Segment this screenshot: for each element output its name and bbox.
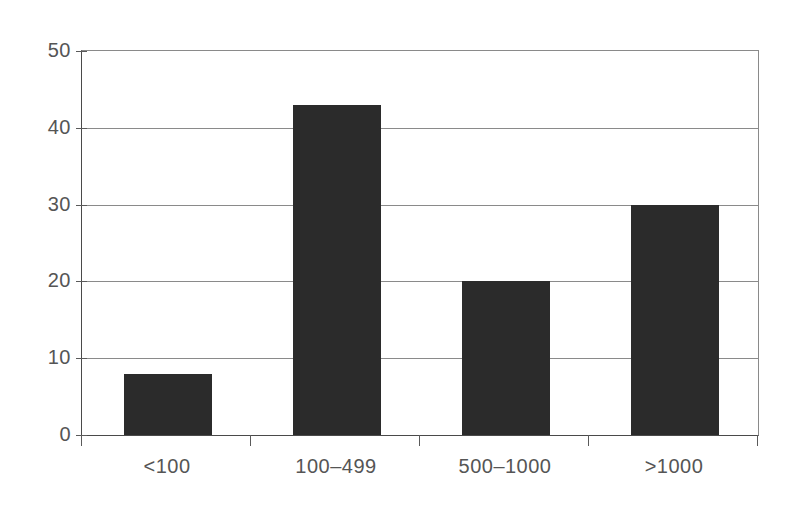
y-axis-tick — [76, 358, 87, 359]
y-axis-tick-label: 0 — [21, 424, 71, 444]
y-axis-tick — [76, 128, 87, 129]
x-axis-tick — [81, 435, 82, 446]
bar — [293, 105, 381, 435]
bar — [124, 374, 212, 435]
x-axis-tick-label: 500–1000 — [459, 456, 552, 476]
x-axis-tick — [757, 435, 758, 446]
bar — [631, 205, 719, 435]
x-axis-tick-label: >1000 — [645, 456, 704, 476]
x-axis-ticks — [81, 435, 758, 447]
x-axis-tick-label: 100–499 — [295, 456, 376, 476]
y-axis-tick-label: 10 — [21, 347, 71, 367]
bar — [462, 281, 550, 435]
y-axis-tick — [76, 281, 87, 282]
x-axis-tick — [250, 435, 251, 446]
y-axis: 01020304050 — [15, 50, 71, 434]
x-axis-tick-label: <100 — [143, 456, 190, 476]
bar-chart-figure: 01020304050 <100100–499500–1000>1000 — [0, 0, 803, 531]
y-axis-tick-label: 40 — [21, 117, 71, 137]
y-axis-tick — [76, 205, 87, 206]
plot-area — [81, 50, 759, 436]
y-axis-tick — [76, 51, 87, 52]
y-axis-tick-label: 50 — [21, 40, 71, 60]
x-axis-tick — [588, 435, 589, 446]
gridline — [82, 128, 758, 129]
x-axis: <100100–499500–1000>1000 — [81, 456, 758, 486]
y-axis-tick-label: 30 — [21, 194, 71, 214]
x-axis-tick — [419, 435, 420, 446]
y-axis-tick-label: 20 — [21, 270, 71, 290]
